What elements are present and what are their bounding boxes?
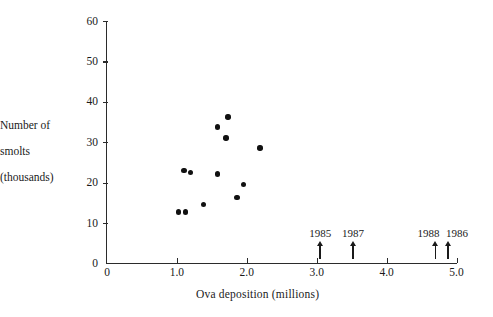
data-point <box>183 209 188 214</box>
year-label: 1985 <box>303 227 337 239</box>
x-tick-mark <box>317 258 318 263</box>
y-tick-label: 60 <box>72 15 98 28</box>
x-axis-line <box>107 263 457 264</box>
x-axis-title: Ova deposition (millions) <box>196 288 319 300</box>
data-point <box>241 182 246 187</box>
y-tick-mark <box>103 183 108 184</box>
arrow-shaft <box>435 245 437 259</box>
y-tick-label: 50 <box>72 55 98 68</box>
y-tick-label: 10 <box>72 217 98 230</box>
x-tick-mark <box>247 258 248 263</box>
y-tick-mark <box>103 21 108 22</box>
data-point <box>201 202 206 207</box>
x-tick-label: 4.0 <box>367 266 407 279</box>
x-tick-mark <box>387 258 388 263</box>
arrow-shaft <box>447 245 449 259</box>
y-axis-title: Number of smolts (thousands) <box>0 112 72 190</box>
data-point <box>257 145 262 150</box>
year-label: 1987 <box>336 227 370 239</box>
arrow-shaft <box>352 245 354 259</box>
data-point <box>176 209 181 214</box>
data-point <box>215 171 220 176</box>
y-axis-title-line-1: Number of <box>0 112 72 138</box>
x-tick-label: 5.0 <box>437 266 477 279</box>
y-tick-mark <box>103 142 108 143</box>
x-tick-mark <box>457 258 458 263</box>
data-point <box>188 170 193 175</box>
y-axis-title-line-3: (thousands) <box>0 164 72 190</box>
year-label: 1986 <box>440 227 474 239</box>
data-point <box>181 168 186 173</box>
data-point <box>225 114 230 119</box>
data-point <box>234 195 239 200</box>
x-tick-mark <box>177 258 178 263</box>
y-tick-mark <box>103 102 108 103</box>
x-tick-label: 2.0 <box>227 266 267 279</box>
scatter-chart: 01.02.03.04.05.00102030405060 1985198719… <box>0 0 493 317</box>
y-tick-label: 0 <box>72 257 98 270</box>
y-axis-title-line-2: smolts <box>0 138 72 164</box>
y-tick-label: 30 <box>72 136 98 149</box>
x-tick-label: 3.0 <box>297 266 337 279</box>
data-point <box>223 135 228 140</box>
y-tick-label: 20 <box>72 176 98 189</box>
arrow-shaft <box>319 245 321 259</box>
x-tick-label: 1.0 <box>157 266 197 279</box>
y-tick-label: 40 <box>72 95 98 108</box>
data-point <box>215 124 220 129</box>
y-tick-mark <box>103 61 108 62</box>
y-tick-mark <box>103 223 108 224</box>
